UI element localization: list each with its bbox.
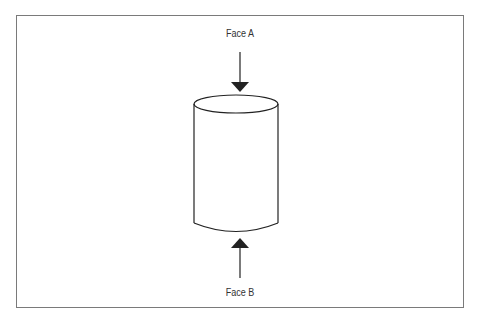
arrow-down-icon xyxy=(231,52,249,92)
cylinder-diagram xyxy=(0,0,482,318)
face-a-label: Face A xyxy=(215,27,264,39)
arrow-up-icon xyxy=(231,238,249,278)
cylinder-shape xyxy=(194,95,278,232)
face-b-label: Face B xyxy=(215,286,264,298)
